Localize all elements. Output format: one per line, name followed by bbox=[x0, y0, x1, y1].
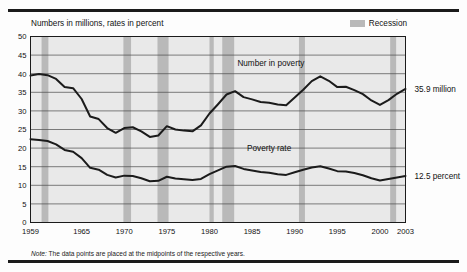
annotation-number-in-poverty: Number in poverty bbox=[237, 59, 305, 68]
ytick-label-35: 35 bbox=[18, 88, 26, 97]
ytick-label-25: 25 bbox=[18, 125, 26, 134]
ytick-label-30: 30 bbox=[18, 107, 26, 116]
xtick-label-1970: 1970 bbox=[116, 227, 133, 236]
xtick-label-1959: 1959 bbox=[22, 227, 39, 236]
xtick-label-1985: 1985 bbox=[244, 227, 261, 236]
ytick-label-20: 20 bbox=[18, 144, 26, 153]
xtick-label-1995: 1995 bbox=[329, 227, 346, 236]
end-label-number-in-poverty: 35.9 million bbox=[415, 85, 457, 94]
end-label-poverty-rate: 12.5 percent bbox=[415, 172, 461, 181]
note-text: The data points are placed at the midpoi… bbox=[47, 250, 245, 257]
ytick-label-50: 50 bbox=[18, 32, 26, 41]
xtick-label-2000: 2000 bbox=[371, 227, 388, 236]
poverty-chart-figure: Numbers in millions, rates in percent Re… bbox=[0, 0, 467, 272]
xtick-label-1980: 1980 bbox=[201, 227, 218, 236]
ytick-label-15: 15 bbox=[18, 163, 26, 172]
ytick-label-40: 40 bbox=[18, 70, 26, 79]
xtick-label-2003: 2003 bbox=[397, 227, 414, 236]
xtick-label-1990: 1990 bbox=[286, 227, 303, 236]
note-prefix: Note: bbox=[31, 250, 47, 257]
ytick-label-5: 5 bbox=[22, 200, 26, 209]
annotation-poverty-rate: Poverty rate bbox=[247, 144, 292, 153]
chart-note: Note: The data points are placed at the … bbox=[31, 250, 245, 257]
ytick-label-10: 10 bbox=[18, 181, 26, 190]
xtick-label-1975: 1975 bbox=[158, 227, 175, 236]
plot-area: 0510152025303540455019591965197019751980… bbox=[0, 0, 467, 272]
ytick-label-45: 45 bbox=[18, 51, 26, 60]
xtick-label-1965: 1965 bbox=[73, 227, 90, 236]
